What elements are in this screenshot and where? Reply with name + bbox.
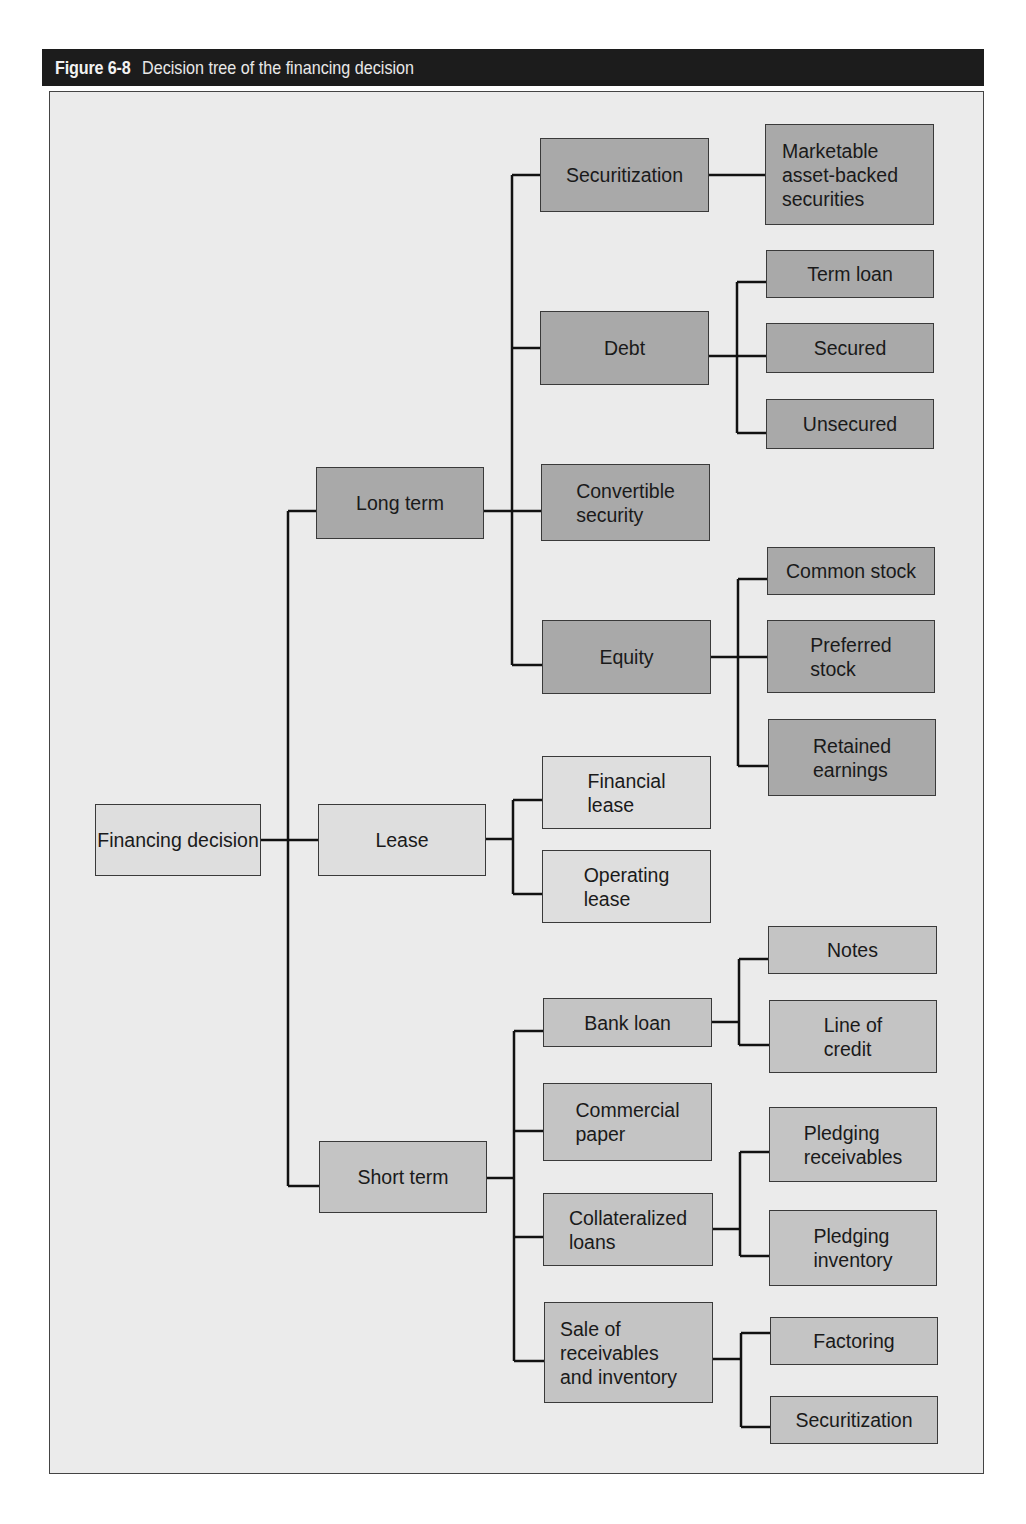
node-marketable-abs: Marketable asset-backed securities <box>765 124 934 225</box>
node-commercial-paper: Commercial paper <box>543 1083 712 1161</box>
node-securitization-long: Securitization <box>540 138 709 212</box>
node-factoring: Factoring <box>770 1317 938 1365</box>
node-operating-lease: Operating lease <box>542 850 711 923</box>
node-pledging-receivables: Pledging receivables <box>769 1107 937 1182</box>
node-notes: Notes <box>768 926 937 974</box>
node-common-stock: Common stock <box>767 547 935 595</box>
node-lease: Lease <box>318 804 486 876</box>
node-securitization-short: Securitization <box>770 1396 938 1444</box>
node-collateralized-loans: Collateralized loans <box>543 1193 713 1266</box>
node-long-term: Long term <box>316 467 484 539</box>
node-preferred-stock: Preferred stock <box>767 620 935 693</box>
node-financial-lease: Financial lease <box>542 756 711 829</box>
node-financing-decision: Financing decision <box>95 804 261 876</box>
node-bank-loan: Bank loan <box>543 998 712 1047</box>
node-pledging-inventory: Pledging inventory <box>769 1210 937 1286</box>
node-sale-of-receivables: Sale of receivables and inventory <box>544 1302 713 1403</box>
node-short-term: Short term <box>319 1141 487 1213</box>
node-convertible-security: Convertible security <box>541 464 710 541</box>
node-term-loan: Term loan <box>766 250 934 298</box>
node-debt: Debt <box>540 311 709 385</box>
node-retained-earnings: Retained earnings <box>768 719 936 796</box>
node-secured: Secured <box>766 323 934 373</box>
node-unsecured: Unsecured <box>766 399 934 449</box>
node-line-of-credit: Line of credit <box>769 1000 937 1073</box>
node-equity: Equity <box>542 620 711 694</box>
